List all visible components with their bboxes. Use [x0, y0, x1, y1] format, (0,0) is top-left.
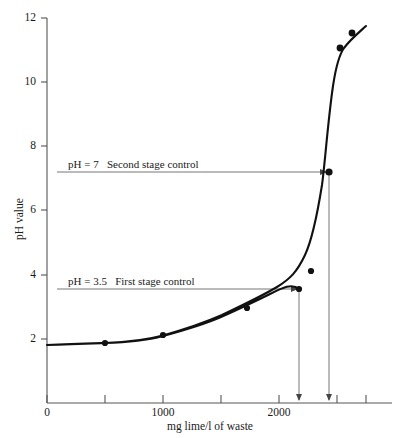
y-tick-label-4: 4	[18, 269, 36, 281]
data-point-markers	[102, 30, 356, 347]
data-point	[337, 45, 344, 52]
first-stage-control-label: pH = 3.5 First stage control	[68, 276, 195, 287]
data-point	[244, 305, 250, 311]
y-axis-title: pH value	[14, 198, 26, 240]
data-point	[308, 268, 314, 274]
chart-plot-area	[0, 0, 400, 438]
data-point	[296, 286, 302, 292]
y-tick-label-10: 10	[18, 76, 36, 88]
x-tick-label-0: 0	[38, 407, 56, 419]
second-stage-control-label: pH = 7 Second stage control	[68, 159, 199, 170]
ph-titration-chart: 12 10 8 6 4 2 0 1000 2000 mg lime/l of w…	[0, 0, 400, 438]
x-tick-label-2000: 2000	[259, 407, 299, 419]
x-tick-label-1000: 1000	[143, 407, 183, 419]
data-point	[325, 168, 332, 175]
x-axis-ticks	[47, 395, 366, 403]
y-tick-label-12: 12	[18, 12, 36, 24]
data-point	[349, 30, 356, 37]
titration-curve	[47, 26, 366, 345]
data-point	[102, 340, 108, 346]
x-axis-title: mg lime/l of waste	[140, 421, 280, 433]
y-tick-label-8: 8	[18, 140, 36, 152]
data-point	[160, 332, 166, 338]
y-tick-label-2: 2	[18, 333, 36, 345]
y-axis-ticks	[41, 18, 47, 339]
